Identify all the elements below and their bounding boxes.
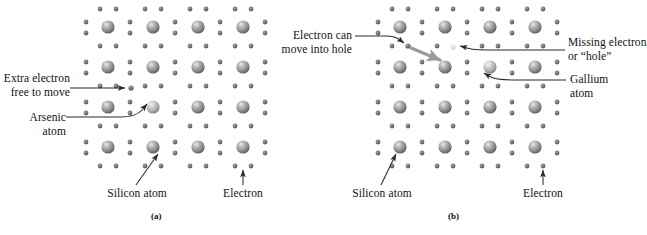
gallium-atom	[483, 60, 496, 73]
extra-electron-label: Extra electron free to move	[0, 72, 70, 99]
silicon-atom-label-b: Silicon atom	[323, 187, 441, 201]
missing-electron-label: Missing electron or “hole”	[568, 36, 634, 63]
electron-can-move-label: Electron can move into hole	[264, 29, 352, 56]
missing-electron-leader	[460, 46, 565, 50]
electron-label-a: Electron	[204, 187, 282, 201]
electron-can-move-leader	[355, 36, 404, 43]
panel-a-tag: (a)	[151, 211, 162, 221]
electron-label-b: Electron	[504, 187, 582, 201]
panel-b-lattice	[376, 7, 560, 169]
silicon-atom-label-a: Silicon atom	[78, 187, 196, 201]
hole-site	[450, 44, 455, 49]
gallium-leader	[484, 73, 566, 80]
panel-b-silicon-atoms	[393, 20, 541, 153]
extra-electron-dot	[128, 85, 133, 90]
silicon-atom-leader-b	[381, 154, 396, 185]
arsenic-atom	[146, 100, 159, 113]
gallium-atom-label: Gallium atom	[570, 73, 632, 100]
panel-b-tag: (b)	[448, 211, 459, 221]
silicon-atom-leader	[136, 154, 158, 185]
panel-a-silicon-atoms	[101, 20, 249, 153]
electron-motion-arrow	[411, 48, 440, 60]
arsenic-atom-label: Arsenic atom	[0, 111, 66, 138]
